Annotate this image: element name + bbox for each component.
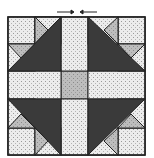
- arrow-right-icon: [57, 10, 74, 14]
- arrow-left-icon: [80, 10, 97, 14]
- corner-unit-bottom-right: [88, 99, 145, 155]
- quilt-block-diagram: [0, 0, 154, 158]
- sash-right: [88, 71, 145, 99]
- corner-unit-top-left: [8, 17, 61, 71]
- corner-unit-top-right: [88, 17, 145, 71]
- corner-unit-bottom-left: [8, 99, 61, 155]
- sash-top: [61, 17, 88, 71]
- press-arrows: [57, 10, 97, 14]
- sash-bottom: [61, 99, 88, 155]
- quilt-block: [8, 17, 145, 155]
- sash-left: [8, 71, 61, 99]
- center-square: [61, 71, 88, 99]
